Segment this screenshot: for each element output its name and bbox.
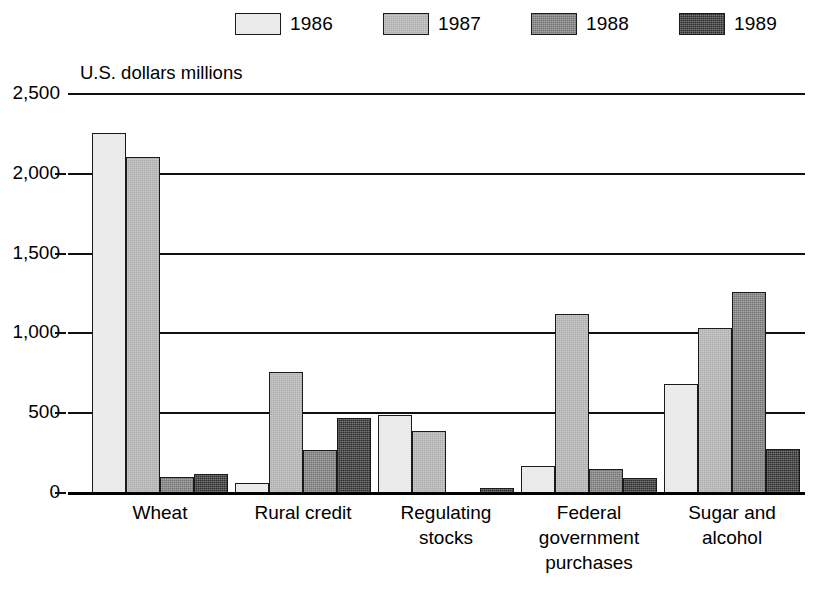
- tick-1500: [55, 253, 66, 255]
- bar-1987-3: [555, 314, 589, 492]
- legend-label-1988: 1988: [586, 13, 629, 35]
- legend-label-1989: 1989: [734, 13, 777, 35]
- bar-1988-4: [732, 292, 766, 492]
- legend-label-1986: 1986: [290, 13, 333, 35]
- y-tick-label-2000: 2,000: [2, 162, 60, 184]
- category-label-1: Rural credit: [223, 500, 383, 525]
- legend-item-1986: 1986: [235, 10, 333, 38]
- legend-swatch-1986: [235, 13, 281, 35]
- legend-swatch-1989: [679, 13, 725, 35]
- y-tick-label-1000: 1,000: [2, 321, 60, 343]
- category-label-4: Sugar and alcohol: [652, 500, 812, 550]
- bar-1987-0: [126, 157, 160, 492]
- bar-1986-0: [92, 133, 126, 492]
- bar-1989-0: [194, 474, 228, 492]
- bar-chart: 1986 1987 1988 1989 U.S. dollars million…: [0, 0, 816, 589]
- legend-item-1987: 1987: [383, 10, 481, 38]
- legend-swatch-1988: [531, 13, 577, 35]
- bar-1989-4: [766, 449, 800, 492]
- legend-label-1987: 1987: [438, 13, 481, 35]
- gridline-0: [68, 492, 805, 495]
- category-label-2: Regulating stocks: [366, 500, 526, 550]
- bar-1988-3: [589, 469, 623, 492]
- tick-1000: [55, 332, 66, 334]
- bars-layer: [68, 93, 805, 492]
- bar-1986-1: [235, 483, 269, 492]
- bar-1988-0: [160, 477, 194, 492]
- y-tick-label-1500: 1,500: [2, 242, 60, 264]
- y-axis-ticks: 05001,0001,5002,0002,500: [0, 93, 60, 492]
- bar-1989-3: [623, 478, 657, 492]
- legend-swatch-1987: [383, 13, 429, 35]
- y-axis-label: U.S. dollars millions: [80, 62, 242, 84]
- bar-1987-2: [412, 431, 446, 492]
- chart-legend: 1986 1987 1988 1989: [0, 10, 816, 40]
- y-tick-label-2500: 2,500: [2, 82, 60, 104]
- legend-item-1989: 1989: [679, 10, 777, 38]
- y-tick-label-0: 0: [2, 481, 60, 503]
- tick-500: [55, 412, 66, 414]
- bar-1988-1: [303, 450, 337, 492]
- tick-2000: [55, 173, 66, 175]
- plot-area: [68, 93, 805, 492]
- bar-1986-2: [378, 415, 412, 492]
- x-axis-categories: WheatRural creditRegulating stocksFedera…: [68, 500, 805, 585]
- bar-1989-2: [480, 488, 514, 492]
- y-tick-label-500: 500: [2, 401, 60, 423]
- category-label-0: Wheat: [80, 500, 240, 525]
- bar-1986-4: [664, 384, 698, 492]
- bar-1987-1: [269, 372, 303, 492]
- tick-0: [55, 492, 66, 494]
- bar-1986-3: [521, 466, 555, 492]
- bar-1987-4: [698, 328, 732, 492]
- bar-1989-1: [337, 418, 371, 492]
- category-label-3: Federal government purchases: [509, 500, 669, 575]
- legend-item-1988: 1988: [531, 10, 629, 38]
